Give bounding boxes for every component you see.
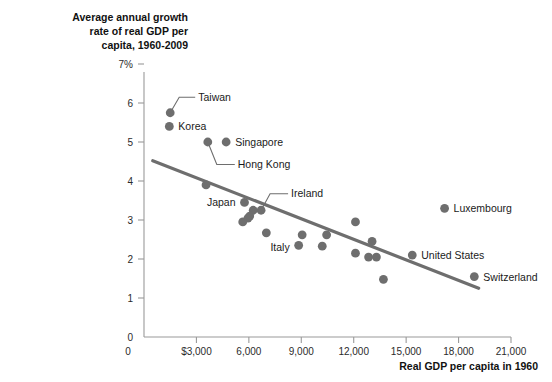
data-point	[294, 241, 303, 250]
x-axis-ticks: 0$3,0006,0009,00012,00015,00018,00021,00…	[125, 337, 527, 357]
point-label: Taiwan	[198, 91, 231, 103]
point-label: Luxembourg	[454, 202, 513, 214]
data-point	[166, 108, 175, 117]
point-label: Korea	[178, 120, 206, 132]
data-point	[322, 230, 331, 239]
trend-line-segment	[153, 161, 479, 289]
point-label: Ireland	[291, 187, 323, 199]
data-point	[372, 253, 381, 262]
y-tick-label: 5	[127, 137, 133, 148]
x-tick-label: 21,000	[496, 346, 527, 357]
y-tick-label: 7%	[119, 59, 134, 70]
point-label: Singapore	[235, 136, 283, 148]
data-point	[203, 138, 212, 147]
label-leader-lines	[170, 97, 288, 210]
data-point	[240, 198, 249, 207]
y-tick-label: 2	[127, 254, 133, 265]
y-axis-ticks: 01234567%	[119, 59, 144, 343]
data-point	[408, 251, 417, 260]
x-axis-title: Real GDP per capita in 1960	[399, 360, 538, 372]
y-tick-label: 1	[127, 293, 133, 304]
chart-figure: Average annual growth rate of real GDP p…	[0, 0, 552, 382]
data-point	[351, 249, 360, 258]
data-point	[222, 138, 231, 147]
point-label: Switzerland	[483, 271, 537, 283]
data-point	[298, 230, 307, 239]
scatter-plot-canvas: 01234567% 0$3,0006,0009,00012,00015,0001…	[0, 0, 552, 382]
data-point	[318, 242, 327, 251]
data-point	[262, 228, 271, 237]
point-label: United States	[421, 249, 484, 261]
x-tick-label: 15,000	[391, 346, 422, 357]
x-tick-label: 12,000	[338, 346, 369, 357]
x-tick-label: 6,000	[236, 346, 261, 357]
data-point	[257, 206, 266, 215]
y-tick-label: 3	[127, 215, 133, 226]
y-tick-label: 4	[127, 176, 133, 187]
trend-line	[153, 161, 479, 289]
data-point	[440, 204, 449, 213]
data-point	[202, 181, 211, 190]
data-point	[165, 122, 174, 131]
point-label: Hong Kong	[238, 158, 291, 170]
data-point	[364, 253, 373, 262]
x-tick-label: 0	[125, 346, 131, 357]
data-point	[379, 275, 388, 284]
x-tick-label: 18,000	[443, 346, 474, 357]
data-point	[351, 218, 360, 227]
x-tick-label: 9,000	[289, 346, 314, 357]
point-label: Italy	[270, 241, 290, 253]
y-tick-label: 6	[127, 98, 133, 109]
y-tick-label: 0	[127, 332, 133, 343]
x-tick-label: $3,000	[181, 346, 212, 357]
data-point	[368, 237, 377, 246]
label-leader	[170, 97, 195, 113]
data-point	[238, 218, 247, 227]
point-label: Japan	[207, 196, 236, 208]
label-leader	[208, 142, 235, 165]
data-point	[470, 272, 479, 281]
